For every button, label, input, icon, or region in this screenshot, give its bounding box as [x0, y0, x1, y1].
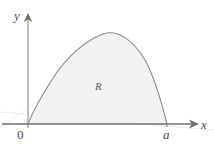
y-axis-label: y	[12, 8, 20, 23]
math-figure: y x 0 a R	[0, 0, 214, 145]
region-label: R	[94, 80, 102, 92]
origin-label: 0	[17, 127, 24, 142]
tick-label-a: a	[163, 127, 170, 142]
figure-container: y x 0 a R	[0, 0, 214, 145]
x-axis-label: x	[200, 117, 207, 132]
region-shaded-area	[28, 33, 167, 124]
